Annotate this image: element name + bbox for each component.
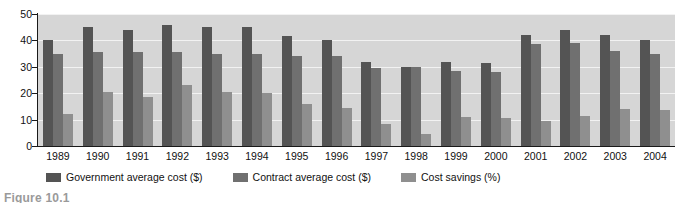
bar-group <box>476 14 516 146</box>
bar-group <box>556 14 596 146</box>
bar <box>133 52 143 146</box>
bar <box>381 124 391 146</box>
x-axis-tick-label: 2001 <box>516 149 556 163</box>
bar <box>332 56 342 146</box>
bar <box>421 134 431 146</box>
figure-container: 01020304050 1989199019911992199319941995… <box>0 0 683 203</box>
bar <box>302 104 312 146</box>
bar <box>610 51 620 146</box>
x-axis-labels: 1989199019911992199319941995199619971998… <box>38 149 675 163</box>
y-tick-label: 0 <box>2 141 32 152</box>
x-axis-line <box>37 146 675 147</box>
bar <box>242 27 252 146</box>
bar-group <box>78 14 118 146</box>
bar-group <box>317 14 357 146</box>
bar <box>202 27 212 146</box>
legend-item: Cost savings (%) <box>401 171 500 183</box>
bar <box>123 30 133 146</box>
legend-item: Government average cost ($) <box>46 171 203 183</box>
bar <box>63 114 73 146</box>
bar <box>212 54 222 146</box>
bar <box>531 44 541 146</box>
legend-swatch-icon <box>46 173 61 182</box>
bar <box>322 40 332 146</box>
bar <box>361 62 371 146</box>
chart-legend: Government average cost ($)Contract aver… <box>38 170 675 184</box>
bar <box>222 92 232 146</box>
x-axis-tick-label: 1989 <box>38 149 78 163</box>
y-tick-label: 50 <box>2 9 32 20</box>
legend-item: Contract average cost ($) <box>233 171 371 183</box>
bar <box>83 27 93 146</box>
x-axis-tick-label: 1992 <box>157 149 197 163</box>
x-axis-tick-label: 1999 <box>436 149 476 163</box>
bar-group <box>635 14 675 146</box>
x-axis-tick-label: 1990 <box>78 149 118 163</box>
bar-group <box>197 14 237 146</box>
x-axis-tick-label: 1994 <box>237 149 277 163</box>
legend-label: Government average cost ($) <box>66 171 203 183</box>
bar <box>600 35 610 146</box>
bar-group <box>38 14 78 146</box>
bar <box>650 54 660 146</box>
x-axis-tick-label: 1998 <box>396 149 436 163</box>
bar <box>461 117 471 146</box>
bar <box>620 109 630 146</box>
bar <box>143 97 153 146</box>
bar <box>660 110 670 146</box>
x-axis-tick-label: 1993 <box>197 149 237 163</box>
x-axis-tick-label: 1997 <box>357 149 397 163</box>
bar <box>292 56 302 146</box>
bar-group <box>396 14 436 146</box>
bar-group <box>595 14 635 146</box>
x-axis-tick-label: 2003 <box>595 149 635 163</box>
bar <box>560 30 570 146</box>
y-tick-label: 40 <box>2 35 32 46</box>
bar <box>411 67 421 146</box>
bar <box>481 63 491 146</box>
y-tick-label: 10 <box>2 115 32 126</box>
bar <box>182 85 192 146</box>
x-axis-tick-label: 2004 <box>635 149 675 163</box>
bar <box>103 92 113 146</box>
bar-group <box>237 14 277 146</box>
bar <box>172 52 182 146</box>
bar <box>441 62 451 146</box>
x-axis-tick-label: 1996 <box>317 149 357 163</box>
legend-label: Contract average cost ($) <box>253 171 371 183</box>
bar <box>53 54 63 146</box>
bar-group <box>436 14 476 146</box>
x-axis-tick-label: 2000 <box>476 149 516 163</box>
x-axis-tick-label: 1995 <box>277 149 317 163</box>
bar-group <box>118 14 158 146</box>
bar <box>570 43 580 146</box>
bar <box>252 54 262 146</box>
figure-caption: Figure 10.1 <box>4 191 70 203</box>
y-tick-label: 30 <box>2 62 32 73</box>
bar <box>401 67 411 146</box>
bar <box>162 25 172 146</box>
bar <box>451 71 461 146</box>
bar-group <box>516 14 556 146</box>
y-axis: 01020304050 <box>0 0 32 160</box>
bar <box>640 40 650 146</box>
bar <box>501 118 511 146</box>
bar <box>282 36 292 146</box>
bar <box>43 40 53 146</box>
bar-groups <box>38 14 675 146</box>
legend-label: Cost savings (%) <box>421 171 500 183</box>
bar-group <box>157 14 197 146</box>
legend-swatch-icon <box>401 173 416 182</box>
x-axis-tick-label: 2002 <box>556 149 596 163</box>
bar <box>371 68 381 146</box>
y-tick-label: 20 <box>2 88 32 99</box>
bar-group <box>277 14 317 146</box>
bar <box>491 72 501 146</box>
bar <box>262 93 272 146</box>
bar <box>541 121 551 146</box>
bar <box>521 35 531 146</box>
x-axis-tick-label: 1991 <box>118 149 158 163</box>
legend-swatch-icon <box>233 173 248 182</box>
bar <box>342 108 352 146</box>
bar-group <box>357 14 397 146</box>
